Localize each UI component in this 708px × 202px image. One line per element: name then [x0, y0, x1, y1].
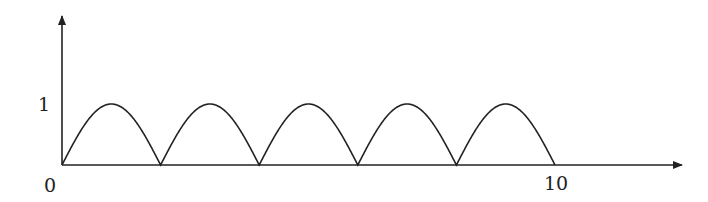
- y-tick-label-1: 1: [38, 93, 50, 115]
- x-tick-label-10: 10: [544, 172, 568, 194]
- function-curve: [62, 104, 555, 165]
- chart: 1 0 10: [0, 0, 708, 202]
- origin-label: 0: [44, 174, 56, 196]
